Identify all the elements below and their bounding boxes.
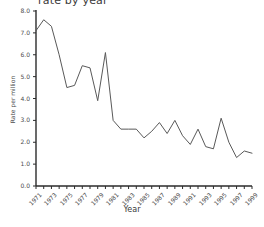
chart-figure: rate by year Rate per million Year 0.01.… [0,0,264,227]
plot-svg [0,0,264,227]
axes [33,10,252,189]
data-lines [36,20,252,158]
